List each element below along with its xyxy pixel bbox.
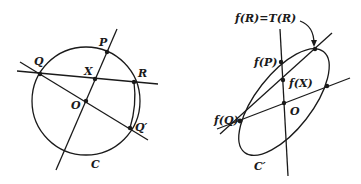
label-o: O: [290, 105, 300, 118]
point-q: [38, 72, 42, 76]
label-fr-tr: f(R)=T(R): [234, 12, 296, 25]
label-c: C: [91, 158, 100, 171]
label-q: Q: [34, 55, 44, 68]
point-q-prime: [128, 126, 132, 130]
label-r: R: [137, 67, 147, 80]
point-right-intersection: [325, 84, 329, 88]
label-p: P: [98, 36, 108, 49]
point-o: [282, 101, 286, 105]
point-fr: [313, 47, 317, 51]
arrow-head-icon: [311, 40, 317, 47]
right-figure: f(R)=T(R) f(P) f(X) O f(Q) C′: [213, 12, 350, 176]
label-o: O: [71, 99, 81, 112]
point-fp: [279, 60, 283, 64]
label-fp: f(P): [253, 56, 277, 69]
label-c-prime: C′: [254, 160, 266, 173]
label-fq: f(Q): [213, 114, 239, 127]
point-r: [132, 80, 136, 84]
point-fx: [281, 78, 285, 82]
diagram: Q P X R O Q′ C f(R)=T(R) f(P) f(X) O f(Q…: [0, 0, 361, 184]
label-q-prime: Q′: [135, 121, 148, 134]
left-figure: Q P X R O Q′ C: [17, 29, 158, 171]
label-fx: f(X): [288, 77, 313, 90]
label-x: X: [83, 65, 93, 78]
point-p: [105, 50, 109, 54]
point-o: [84, 99, 88, 103]
point-x: [93, 77, 97, 81]
